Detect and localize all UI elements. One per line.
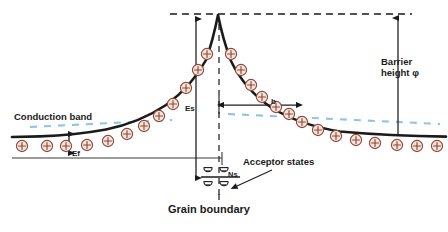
conduction-band-label: Conduction band: [14, 112, 92, 123]
acceptor-states-label: Acceptor states: [243, 157, 314, 168]
barrier-height-label: Barrier height φ: [381, 57, 419, 79]
barrier-height-line1: Barrier: [381, 56, 412, 67]
barrier-height-line2: height φ: [381, 67, 419, 78]
grain-boundary-label: Grain boundary: [168, 203, 250, 216]
es-label: Es: [185, 104, 195, 113]
acceptor-states-pointer: [237, 170, 272, 186]
band-diagram-figure: Conduction band Ef Es b Ns Barrier heigh…: [0, 0, 448, 232]
fermi-level-label: Ef: [72, 149, 80, 158]
positive-charge-markers: [16, 48, 442, 151]
bulk-fermi-baseline: [12, 152, 222, 165]
surface-state-density-label: Ns: [228, 171, 238, 180]
fermi-level-dashed-right: [228, 114, 440, 124]
depletion-width-label: b: [271, 97, 276, 106]
